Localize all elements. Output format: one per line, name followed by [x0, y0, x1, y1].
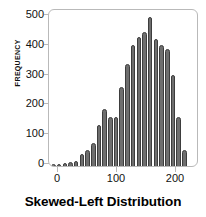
x-tick-label: 200: [155, 172, 195, 184]
histogram-bar: [102, 109, 107, 167]
y-tick-label: 200: [10, 98, 44, 109]
histogram-bar: [159, 45, 164, 167]
histogram-bar: [91, 143, 96, 167]
histogram-bar: [80, 154, 85, 167]
x-tick-label: 0: [37, 172, 77, 184]
y-tick-label: 400: [10, 39, 44, 50]
y-tick-label: 100: [10, 128, 44, 139]
histogram-bar: [114, 117, 119, 167]
y-tick-label: 500: [10, 9, 44, 20]
y-tick-label: 300: [10, 69, 44, 80]
plot-area: [48, 9, 198, 167]
histogram-bar: [119, 87, 124, 167]
histogram-bar: [74, 161, 79, 167]
histogram-bar: [97, 125, 102, 167]
histogram-bar: [57, 164, 62, 167]
histogram-bar: [63, 163, 68, 167]
histogram-bar: [154, 39, 159, 167]
x-axis-tick-labels: 0 100 200: [0, 172, 206, 188]
histogram-bar: [108, 117, 113, 167]
histogram-bar: [165, 49, 170, 167]
histogram-bar: [137, 37, 142, 167]
histogram-bar: [171, 75, 176, 167]
histogram-bar: [182, 150, 187, 167]
histogram-bar: [148, 17, 153, 167]
histogram-bar: [85, 150, 90, 167]
x-tick-label: 100: [96, 172, 136, 184]
histogram-bar: [68, 162, 73, 167]
histogram-bar: [176, 117, 181, 167]
histogram-bar: [51, 164, 56, 167]
chart-title: Skewed-Left Distribution: [0, 194, 206, 209]
histogram-bar: [125, 64, 130, 167]
histogram-bar: [131, 45, 136, 167]
histogram-figure: Frequency 500 400 300 200 100 0 0 100 20…: [0, 0, 206, 217]
histogram-bar: [142, 32, 147, 167]
histogram-bars: [49, 10, 197, 166]
y-tick-label: 0: [10, 158, 44, 169]
